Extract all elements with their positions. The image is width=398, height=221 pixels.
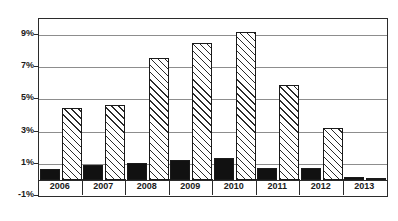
x-axis-label-2010: 2010 [212, 181, 256, 192]
x-axis-separator [82, 179, 83, 195]
y-axis: 9%7%5%3%1%-1% [0, 0, 34, 221]
x-axis-label-2007: 2007 [82, 181, 126, 192]
y-axis-tick-mark [34, 195, 38, 196]
bar-solid-black-series-2010 [214, 158, 234, 180]
y-axis-tick-label: 3% [4, 126, 34, 135]
gridline [39, 99, 387, 100]
y-axis-tick-label: -1% [4, 190, 34, 199]
x-axis-label-2008: 2008 [125, 181, 169, 192]
x-axis-label-2013: 2013 [343, 181, 387, 192]
x-axis-label-2011: 2011 [256, 181, 300, 192]
x-axis-separator [169, 179, 170, 195]
x-axis-labels: 20062007200820092010201120122013 [38, 179, 388, 195]
bar-hatched-series-2010 [236, 32, 256, 180]
bar-solid-black-series-2007 [83, 165, 103, 179]
bar-hatched-series-2006 [62, 108, 82, 180]
gridline [39, 35, 387, 36]
bar-chart: 9%7%5%3%1%-1% 20062007200820092010201120… [0, 0, 398, 221]
y-axis-tick-label: 9% [4, 29, 34, 38]
x-axis-separator [343, 179, 344, 195]
bar-hatched-series-2007 [105, 105, 125, 180]
x-axis-separator [212, 179, 213, 195]
x-axis-label-2012: 2012 [299, 181, 343, 192]
y-axis-tick-mark [34, 98, 38, 99]
y-axis-tick-mark [34, 66, 38, 67]
x-axis-separator [299, 179, 300, 195]
x-axis-separator [256, 179, 257, 195]
y-axis-tick-label: 7% [4, 61, 34, 70]
y-axis-tick-mark [34, 131, 38, 132]
gridline [39, 67, 387, 68]
bar-hatched-series-2012 [323, 128, 343, 179]
y-axis-tick-label: 1% [4, 158, 34, 167]
x-axis-label-2009: 2009 [169, 181, 213, 192]
bar-hatched-series-2011 [279, 85, 299, 180]
y-axis-tick-mark [34, 34, 38, 35]
x-axis-label-2006: 2006 [38, 181, 82, 192]
y-axis-tick-label: 5% [4, 93, 34, 102]
bar-hatched-series-2009 [192, 43, 212, 180]
bar-solid-black-series-2009 [170, 160, 190, 180]
bar-solid-black-series-2008 [127, 163, 147, 180]
plot-area [38, 18, 388, 197]
x-axis-separator [125, 179, 126, 195]
bar-hatched-series-2008 [149, 58, 169, 179]
y-axis-tick-mark [34, 163, 38, 164]
